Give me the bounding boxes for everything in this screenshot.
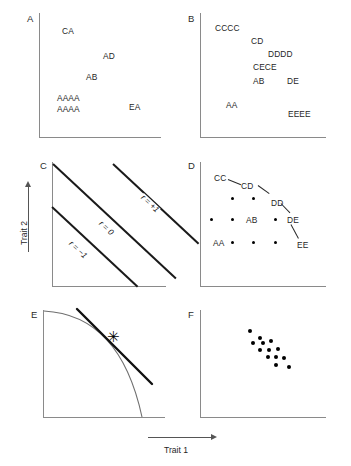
y-axis-caption: Trait 2 [20,221,29,245]
panel-f-x-axis [200,417,326,418]
figure-panel-grid: A CA AD AB AAAA AAAA EA B CCCC CD DDDD C… [0,0,351,466]
panel-e-optimum-star-marker: ✳ [107,330,120,345]
panel-e-frontier-curve [44,311,142,417]
panel-f-y-axis [200,310,201,417]
x-axis-arrow-head-icon [211,434,217,440]
x-axis-arrow-shaft [148,437,212,438]
panel-f-letter: F [188,310,194,320]
panel-e-curves [0,0,351,466]
panel-e-tangent-line [77,309,152,384]
y-axis-arrow-head-icon [25,181,31,187]
x-axis-caption: Trait 1 [164,446,188,455]
